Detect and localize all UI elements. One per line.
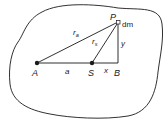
mass-element-square: [117, 21, 121, 25]
point-p-label: P: [110, 12, 116, 22]
distance-x-label: x: [103, 66, 109, 75]
diagram-canvas: A S B P a x y ra rs dm: [0, 0, 166, 121]
distance-y-label: y: [120, 39, 126, 48]
mass-element-label: dm: [122, 20, 133, 29]
distance-a-label: a: [65, 67, 70, 76]
rs-subscript: s: [95, 41, 98, 47]
ra-subscript: a: [76, 32, 79, 38]
point-a-dot: [35, 61, 39, 65]
point-s-label: S: [88, 68, 94, 78]
point-a-label: A: [31, 68, 38, 78]
point-b-label: B: [114, 68, 120, 78]
distance-ra-label: ra: [73, 28, 79, 38]
segment-a-to-p: [37, 23, 116, 63]
point-s-dot: [90, 61, 94, 65]
distance-rs-label: rs: [92, 37, 98, 47]
body-outline: [9, 5, 162, 118]
